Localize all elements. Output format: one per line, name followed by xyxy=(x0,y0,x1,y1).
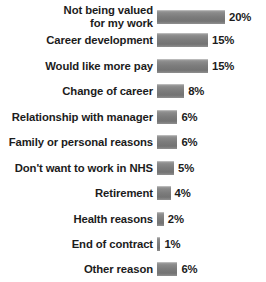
bar-row: Family or personal reasons6% xyxy=(0,134,266,150)
bar-value-label: 15% xyxy=(208,60,234,72)
bar-track: 6% xyxy=(157,261,266,277)
bar-row: Change of career8% xyxy=(0,83,266,99)
bar-track: 15% xyxy=(157,32,266,48)
bar-category-label: Retirement xyxy=(0,187,157,200)
bar xyxy=(157,110,177,124)
bar-row: Retirement4% xyxy=(0,185,266,201)
bar-category-label: Career development xyxy=(0,34,157,47)
bar-row: Would like more pay15% xyxy=(0,58,266,74)
bar-row: Career development15% xyxy=(0,32,266,48)
bar-category-label: Other reason xyxy=(0,263,157,276)
bar-track: 5% xyxy=(157,160,266,176)
bar-track: 20% xyxy=(157,7,266,27)
bar-category-label: Don't want to work in NHS xyxy=(0,162,157,175)
bar-value-label: 6% xyxy=(177,111,197,123)
bar-value-label: 6% xyxy=(177,136,197,148)
bar xyxy=(157,135,177,149)
bar-track: 1% xyxy=(157,236,266,252)
bar xyxy=(157,262,177,276)
bar xyxy=(157,161,174,175)
bar-track: 6% xyxy=(157,134,266,150)
bar-chart: Not being valued for my work20%Career de… xyxy=(0,0,266,282)
bar-row: Other reason6% xyxy=(0,261,266,277)
bar xyxy=(157,59,208,73)
bar-track: 2% xyxy=(157,211,266,227)
bar-category-label: Change of career xyxy=(0,85,157,98)
bar xyxy=(157,212,164,226)
bar-row: End of contract1% xyxy=(0,236,266,252)
bar-track: 4% xyxy=(157,185,266,201)
bar-row: Relationship with manager6% xyxy=(0,109,266,125)
bar-track: 8% xyxy=(157,83,266,99)
bar-value-label: 2% xyxy=(164,213,184,225)
bar xyxy=(157,33,208,47)
bar-category-label: Family or personal reasons xyxy=(0,136,157,149)
bar-category-label: Health reasons xyxy=(0,213,157,226)
bar-track: 6% xyxy=(157,109,266,125)
bar-value-label: 1% xyxy=(160,238,180,250)
bar-track: 15% xyxy=(157,58,266,74)
bar-value-label: 20% xyxy=(225,11,251,23)
bar xyxy=(157,186,171,200)
bar-value-label: 8% xyxy=(184,85,204,97)
bar-category-label: Relationship with manager xyxy=(0,111,157,124)
bar-row: Not being valued for my work20% xyxy=(0,7,266,27)
bar-value-label: 4% xyxy=(171,187,191,199)
bar-category-label: Not being valued for my work xyxy=(0,4,157,29)
bar-row: Health reasons2% xyxy=(0,211,266,227)
bar-row: Don't want to work in NHS5% xyxy=(0,160,266,176)
bar-value-label: 6% xyxy=(177,263,197,275)
bar xyxy=(157,10,225,24)
bar-value-label: 15% xyxy=(208,34,234,46)
bar xyxy=(157,84,184,98)
bar-category-label: Would like more pay xyxy=(0,60,157,73)
bar-value-label: 5% xyxy=(174,162,194,174)
bar-category-label: End of contract xyxy=(0,238,157,251)
